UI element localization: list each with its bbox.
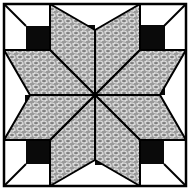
quilt-block [0, 0, 190, 191]
